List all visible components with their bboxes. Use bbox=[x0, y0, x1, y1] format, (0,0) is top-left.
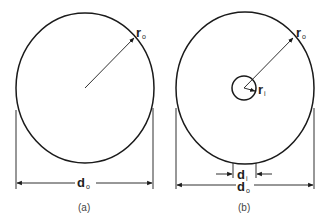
figure-a bbox=[16, 13, 154, 189]
label-do-a-sub: o bbox=[86, 183, 90, 190]
label-ro-a: ro bbox=[136, 26, 146, 40]
label-do-a-main: d bbox=[77, 175, 85, 190]
label-do-b-sub: o bbox=[246, 187, 250, 194]
label-ro-a-sub: o bbox=[142, 33, 146, 40]
label-do-a: do bbox=[77, 176, 90, 190]
caption-b: (b) bbox=[238, 203, 250, 213]
label-ri-b-sub: i bbox=[264, 90, 266, 97]
caption-a: (a) bbox=[78, 203, 90, 213]
figure-b bbox=[176, 12, 314, 189]
label-ri-b: ri bbox=[258, 83, 266, 97]
inner-radius-arrow-b bbox=[244, 88, 255, 91]
diagram-canvas bbox=[0, 0, 328, 221]
label-do-b-main: d bbox=[237, 179, 245, 194]
label-ro-b: ro bbox=[296, 26, 306, 40]
label-ri-b-main: r bbox=[258, 82, 263, 97]
label-ro-b-sub: o bbox=[302, 33, 306, 40]
label-do-b: do bbox=[237, 180, 250, 194]
label-ro-a-main: r bbox=[136, 25, 141, 40]
radius-arrow-a bbox=[85, 38, 134, 88]
label-ro-b-main: r bbox=[296, 25, 301, 40]
outer-radius-arrow-b bbox=[244, 38, 293, 88]
